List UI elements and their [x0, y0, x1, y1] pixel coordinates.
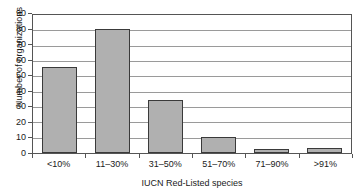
x-axis-title: IUCN Red-Listed species — [32, 178, 352, 188]
y-axis-tick-label: 50 — [16, 70, 26, 80]
y-axis-tick-label: 90 — [16, 8, 26, 18]
x-axis-tick-mark — [85, 154, 86, 158]
x-axis-tick-mark — [192, 154, 193, 158]
x-axis-tick-label: 31–50% — [139, 159, 192, 170]
x-axis-tick-mark — [352, 154, 353, 158]
bar-slot — [298, 15, 351, 153]
x-axis-tick-mark — [139, 154, 140, 158]
plot-area — [32, 14, 352, 154]
bar — [148, 100, 183, 153]
x-axis-tick-mark — [245, 154, 246, 158]
y-axis-tick-label: 10 — [16, 132, 26, 142]
x-axis-tick-mark — [32, 154, 33, 158]
bar-slot — [192, 15, 245, 153]
bar — [201, 137, 236, 153]
y-axis-tick-label: 60 — [16, 55, 26, 65]
y-axis-tick-label: 70 — [16, 39, 26, 49]
bar — [95, 29, 130, 153]
bar-slot — [139, 15, 192, 153]
x-axis-tick-label: 71–90% — [245, 159, 298, 170]
x-axis-tick-label: 51–70% — [192, 159, 245, 170]
x-axis-tick-labels: <10%11–30%31–50%51–70%71–90%>91% — [32, 159, 352, 170]
x-axis-tick-mark — [299, 154, 300, 158]
x-axis-tick-label: >91% — [299, 159, 352, 170]
bar — [254, 149, 289, 153]
bar-slot — [33, 15, 86, 153]
bar-chart: Number of organizations 0102030405060708… — [0, 0, 361, 195]
y-axis-tick-label: 80 — [16, 24, 26, 34]
x-axis-tick-label: <10% — [32, 159, 85, 170]
bar — [42, 67, 77, 153]
y-axis-tick-label: 0 — [21, 148, 26, 158]
bar-slot — [86, 15, 139, 153]
bar — [307, 148, 342, 153]
y-axis-tick-label: 20 — [16, 117, 26, 127]
bar-slot — [245, 15, 298, 153]
y-axis-ticks: 0102030405060708090 — [0, 14, 32, 154]
x-axis-tick-label: 11–30% — [85, 159, 138, 170]
y-axis-tick-label: 40 — [16, 86, 26, 96]
y-axis-tick-label: 30 — [16, 101, 26, 111]
bar-series — [33, 15, 351, 153]
